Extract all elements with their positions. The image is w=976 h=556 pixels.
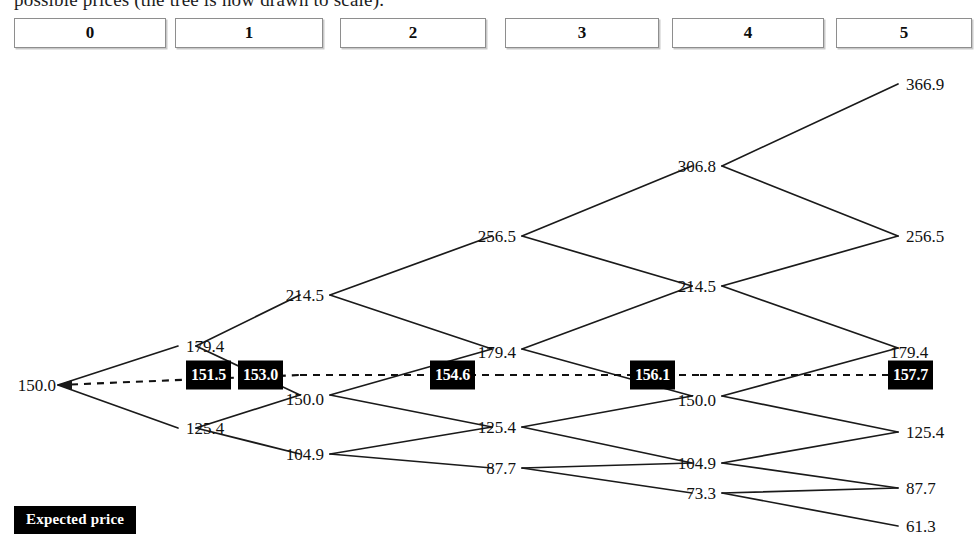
edge-3b-u — [522, 286, 692, 349]
node-s0-0: 150.0 — [0, 377, 56, 394]
step-header-row: 0 1 2 3 4 5 — [0, 18, 976, 52]
expected-price-box-step5[interactable]: 157.7 — [888, 361, 933, 390]
step-header-3[interactable]: 3 — [505, 18, 659, 48]
node-s4-1: 214.5 — [630, 278, 716, 295]
edge-2a-u — [330, 236, 492, 295]
legend-expected-price: Expected price — [14, 506, 136, 534]
node-s4-2: 150.0 — [630, 392, 716, 409]
node-s3-3: 87.7 — [430, 460, 516, 477]
edge-4a-d — [722, 166, 898, 236]
node-s3-0: 256.5 — [430, 228, 516, 245]
node-s3-2: 125.4 — [430, 419, 516, 436]
expected-price-box-step1[interactable]: 151.5 — [186, 361, 231, 390]
edge-4e-u — [722, 488, 898, 493]
node-s2-2: 104.9 — [238, 446, 324, 463]
edge-4b-u — [722, 236, 898, 286]
node-s4-3: 104.9 — [630, 455, 716, 472]
node-s4-4: 73.3 — [630, 485, 716, 502]
edge-4a-u — [722, 84, 898, 166]
root-arrowhead — [58, 380, 72, 390]
node-s1-0: 179.4 — [186, 338, 224, 355]
edge-4d-u — [722, 432, 898, 463]
step-header-2-label: 2 — [409, 23, 418, 43]
caption-strip: possible prices (the tree is now drawn t… — [0, 0, 976, 16]
edge-4b-d — [722, 286, 898, 348]
step-header-1-label: 1 — [245, 23, 254, 43]
step-header-4-label: 4 — [744, 23, 753, 43]
node-s5-0: 366.9 — [906, 76, 944, 93]
step-header-0-label: 0 — [86, 23, 95, 43]
arrowhead-group — [58, 380, 72, 390]
step-header-4[interactable]: 4 — [672, 18, 824, 48]
node-s3-1: 179.4 — [430, 344, 516, 361]
edge-4c-d — [722, 396, 898, 432]
edge-0d — [58, 385, 178, 428]
edge-0u — [58, 346, 178, 385]
edge-4d-d — [722, 463, 898, 488]
edge-2a-d — [330, 295, 492, 349]
node-s2-1: 150.0 — [238, 391, 324, 408]
step-header-3-label: 3 — [578, 23, 587, 43]
step-header-5[interactable]: 5 — [836, 18, 972, 48]
caption-text: possible prices (the tree is now drawn t… — [14, 0, 384, 11]
expected-price-box-step4[interactable]: 156.1 — [630, 361, 675, 390]
node-s5-5: 61.3 — [906, 518, 936, 535]
node-s5-1: 256.5 — [906, 228, 944, 245]
legend-label: Expected price — [26, 511, 124, 527]
node-s5-3: 125.4 — [906, 424, 944, 441]
expected-price-box-step2[interactable]: 153.0 — [238, 361, 283, 390]
step-header-5-label: 5 — [900, 23, 909, 43]
tree-edges-svg — [0, 56, 976, 556]
node-s5-4: 87.7 — [906, 480, 936, 497]
step-header-2[interactable]: 2 — [340, 18, 486, 48]
edge-4e-d — [722, 493, 898, 526]
node-s1-1: 125.4 — [186, 420, 224, 437]
expected-price-box-step3[interactable]: 154.6 — [430, 361, 475, 390]
node-s2-0: 214.5 — [238, 287, 324, 304]
edge-3a-u — [522, 166, 692, 236]
binomial-tree: 150.0 179.4 125.4 151.5 214.5 150.0 104.… — [0, 56, 976, 556]
node-s5-2: 179.4 — [890, 344, 928, 361]
edge-4c-u — [722, 348, 898, 396]
step-header-1[interactable]: 1 — [175, 18, 323, 48]
node-s4-0: 306.8 — [630, 158, 716, 175]
step-header-0[interactable]: 0 — [14, 18, 166, 48]
